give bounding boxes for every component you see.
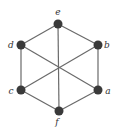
vertex-c	[17, 86, 26, 95]
edge-e-b	[58, 24, 98, 45]
vertex-label-c: c	[8, 86, 13, 96]
vertex-label-a: a	[105, 86, 110, 96]
vertex-label-e: e	[55, 7, 60, 17]
edge-a-f	[59, 90, 98, 111]
edge-d-e	[21, 24, 58, 45]
vertex-label-d: d	[8, 40, 14, 50]
vertex-a	[94, 86, 103, 95]
vertex-label-b: b	[104, 40, 110, 50]
vertex-b	[94, 41, 103, 50]
vertex-e	[54, 20, 63, 29]
edge-f-c	[21, 90, 59, 111]
edge-group	[21, 24, 98, 111]
vertex-d	[17, 41, 26, 50]
vertex-f	[55, 107, 64, 116]
vertex-label-f: f	[54, 117, 60, 127]
hexagon-graph-diagram: ebafcd	[0, 0, 118, 130]
